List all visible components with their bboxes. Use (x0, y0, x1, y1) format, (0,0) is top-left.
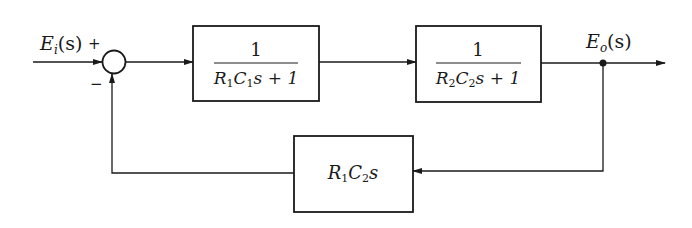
block-g1-numerator: 1 (250, 39, 261, 60)
summing-junction (103, 51, 126, 74)
block-g2-numerator: 1 (472, 39, 483, 60)
block-g2 (416, 26, 541, 102)
input-label: Ei(s) (39, 32, 82, 57)
output-label: Eo(s) (585, 30, 632, 55)
minus-sign: − (90, 75, 103, 93)
plus-sign: + (88, 35, 101, 53)
block-g2-denominator: R2C2s + 1 (435, 68, 520, 90)
block-g1-denominator: R1C1s + 1 (213, 68, 298, 90)
feedback-block-label: R1C2s (327, 162, 379, 185)
block-diagram: Ei(s) + − 1 R1C1s + 1 1 R2C2s + 1 Eo(s) … (0, 0, 692, 228)
